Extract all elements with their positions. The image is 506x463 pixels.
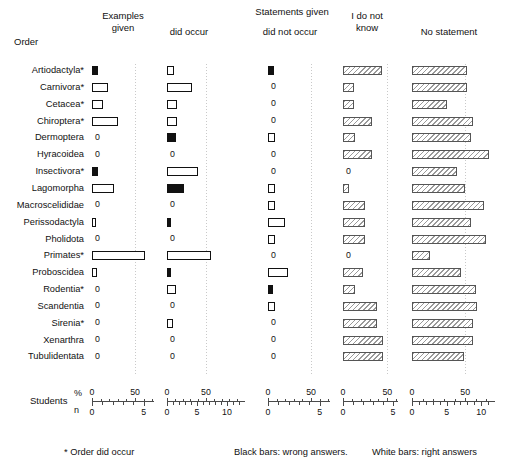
zero-value-label: 0 — [170, 301, 175, 310]
zero-value-label: 0 — [95, 318, 100, 327]
zero-value-label: 0 — [271, 318, 276, 327]
bar-did-occur — [167, 100, 177, 109]
gridline-i-do-not-know — [387, 64, 388, 374]
tick-label-n: 0 — [334, 407, 352, 417]
zero-value-label: 0 — [170, 335, 175, 344]
bar-did-not-occur — [268, 184, 275, 193]
tick-pct-did-not-occur — [268, 398, 269, 402]
bar-i-do-not-know — [343, 352, 383, 361]
tick-label-n: 0 — [259, 407, 277, 417]
bar-i-do-not-know — [343, 285, 355, 294]
tick-label-n: 5 — [384, 407, 402, 417]
tick-label-n: 0 — [403, 407, 421, 417]
bar-examples-given — [92, 66, 98, 75]
tick-n-minor — [133, 402, 134, 405]
bar-no-statement — [412, 167, 457, 176]
tick-n-did-occur — [167, 402, 168, 406]
tick-pct-minor — [476, 399, 477, 402]
tick-label-n: 5 — [135, 407, 153, 417]
gridline-did-occur — [206, 64, 207, 374]
tick-label-pct: 0 — [158, 387, 176, 397]
bar-i-do-not-know — [343, 66, 382, 75]
tick-n-minor — [289, 402, 290, 405]
bar-no-statement — [412, 133, 471, 142]
tick-label-pct: 0 — [403, 387, 421, 397]
tick-n-minor — [173, 402, 174, 405]
tick-n-minor — [353, 402, 354, 405]
bar-did-not-occur — [268, 133, 275, 142]
tick-n-minor — [474, 402, 475, 405]
bar-no-statement — [412, 268, 461, 277]
bar-no-statement — [412, 150, 489, 159]
bar-did-not-occur — [268, 285, 273, 294]
tick-pct-minor — [183, 399, 184, 402]
row-axis-title: Order — [14, 36, 38, 47]
tick-n-no-statement — [481, 402, 482, 406]
row-label: Proboscidea — [0, 267, 84, 277]
bar-did-occur — [167, 218, 171, 227]
bar-did-occur — [167, 251, 211, 260]
tick-n-did-not-occur — [320, 402, 321, 406]
tick-pct-minor — [361, 399, 362, 402]
bar-no-statement — [412, 235, 486, 244]
tick-n-minor — [203, 402, 204, 405]
tick-pct-minor — [370, 399, 371, 402]
tick-pct-no-statement — [465, 398, 466, 402]
gridline-did-not-occur — [311, 64, 312, 374]
tick-label-n: 5 — [438, 407, 456, 417]
bar-did-not-occur — [268, 66, 274, 75]
row-label: Primates* — [0, 250, 84, 260]
bar-did-not-occur — [268, 302, 275, 311]
tick-pct-did-occur — [167, 398, 168, 402]
tick-label-pct: 50 — [126, 387, 144, 397]
tick-n-did-occur — [227, 402, 228, 406]
bar-did-occur — [167, 167, 198, 176]
bar-did-occur — [167, 117, 177, 126]
bar-did-occur — [167, 285, 176, 294]
tick-pct-minor — [152, 399, 153, 402]
tick-n-no-statement — [447, 402, 448, 406]
row-label: Dermoptera — [0, 132, 84, 142]
tick-pct-minor — [229, 399, 230, 402]
row-label: Carnivora* — [0, 82, 84, 92]
tick-pct-did-occur — [206, 398, 207, 402]
bar-i-do-not-know — [343, 83, 354, 92]
tick-pct-minor — [175, 399, 176, 402]
bar-did-not-occur — [268, 268, 288, 277]
bar-did-occur — [167, 133, 176, 142]
row-label: Perissodactyla — [0, 217, 84, 227]
bar-examples-given — [92, 167, 98, 176]
tick-pct-minor — [396, 399, 397, 402]
tick-label-n: 10 — [218, 407, 236, 417]
zero-value-label: 0 — [271, 82, 276, 91]
tick-n-minor — [460, 402, 461, 405]
bar-examples-given — [92, 218, 96, 227]
zero-value-label: 0 — [346, 251, 351, 260]
row-label: Scandentia — [0, 301, 84, 311]
bar-no-statement — [412, 319, 473, 328]
tick-label-pct: 0 — [83, 387, 101, 397]
row-label: Rodentia* — [0, 284, 84, 294]
bar-i-do-not-know — [343, 150, 372, 159]
tick-n-minor — [363, 402, 364, 405]
tick-n-minor — [467, 402, 468, 405]
tick-n-i-do-not-know — [343, 402, 344, 406]
tick-n-minor — [239, 402, 240, 405]
zero-value-label: 0 — [271, 150, 276, 159]
unit-n-label: n — [74, 405, 79, 415]
row-label: Macroscelididae — [0, 200, 84, 210]
bar-did-occur — [167, 319, 173, 328]
column-header-examples-given: Examples — [84, 10, 162, 22]
tick-label-n: 0 — [158, 407, 176, 417]
tick-n-minor — [179, 402, 180, 405]
zero-value-label: 0 — [95, 285, 100, 294]
zero-value-label: 0 — [170, 200, 175, 209]
column-header-i-do-not-know: I do not — [328, 10, 406, 22]
bar-no-statement — [412, 302, 477, 311]
bar-no-statement — [412, 218, 471, 227]
tick-pct-minor — [285, 399, 286, 402]
bar-no-statement — [412, 83, 467, 92]
bar-i-do-not-know — [343, 268, 363, 277]
bar-examples-given — [92, 117, 118, 126]
bar-did-not-occur — [268, 235, 275, 244]
